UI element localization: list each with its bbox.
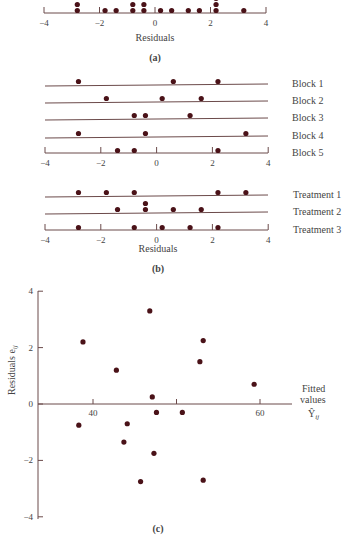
chart-b-xlabel: Residuals (139, 243, 178, 254)
data-point (180, 410, 185, 415)
data-point (215, 190, 220, 195)
data-point (154, 410, 159, 415)
baseline (45, 84, 268, 86)
tick-label: 2 (29, 343, 34, 353)
chart-c-ylabel: Residuals eij (6, 345, 19, 395)
row-block-5: −4−2024Block 5 (40, 147, 323, 168)
data-point (138, 479, 143, 484)
data-point (186, 8, 191, 13)
chart-a: −4−2024 Residuals (a) (39, 0, 269, 64)
data-point (115, 148, 120, 153)
data-point (171, 79, 176, 84)
tick-label: 0 (153, 18, 158, 28)
tick-label: 2 (210, 235, 215, 245)
data-point (197, 359, 202, 364)
data-point (80, 339, 85, 344)
tick-label: −2 (23, 455, 33, 465)
tick-label: 4 (29, 286, 34, 296)
data-point (171, 207, 176, 212)
baseline (45, 136, 268, 138)
row-treatment-3: −4−2024Treatment 3 (40, 224, 341, 245)
data-point (121, 439, 126, 444)
data-point (114, 368, 119, 373)
data-point (75, 2, 80, 7)
data-point (130, 8, 135, 13)
data-point (114, 8, 119, 13)
data-point (125, 421, 130, 426)
chart-b: Block 1Block 2Block 3Block 4−4−2024Block… (40, 78, 341, 245)
tick-label: −4 (40, 235, 50, 245)
row-label: Block 5 (292, 147, 323, 158)
chart-c-xlabel-fitted: Fitted (302, 383, 325, 394)
data-point (201, 338, 206, 343)
data-point (197, 8, 202, 13)
data-point (143, 113, 148, 118)
chart-a-xlabel: Residuals (136, 32, 175, 43)
data-point (160, 96, 165, 101)
row-block-4: Block 4 (45, 130, 323, 141)
chart-c: −4−2024 4060 Residuals eij Fitted values… (6, 286, 326, 535)
data-point (76, 190, 81, 195)
data-point (199, 207, 204, 212)
row-block-3: Block 3 (45, 112, 323, 123)
row-label: Treatment 2 (293, 206, 341, 217)
tick-label: 60 (256, 408, 266, 418)
row-block-1: Block 1 (45, 78, 323, 89)
tick-label: 0 (29, 399, 34, 409)
data-point (143, 131, 148, 136)
data-point (199, 96, 204, 101)
data-point (243, 131, 248, 136)
data-point (213, 8, 218, 13)
tick-label: −2 (96, 235, 106, 245)
row-label: Block 1 (292, 78, 323, 89)
row-label: Block 3 (292, 112, 323, 123)
data-point (104, 190, 109, 195)
tick-label: −4 (23, 512, 33, 522)
data-point (215, 79, 220, 84)
tick-label: 4 (266, 158, 271, 168)
baseline (45, 212, 268, 214)
data-point (252, 382, 257, 387)
chart-c-xlabel-symbol: Ŷij (308, 408, 319, 421)
data-point (76, 423, 81, 428)
baseline (45, 101, 268, 103)
data-point (158, 8, 163, 13)
tick-label: 40 (89, 408, 99, 418)
data-point (213, 2, 218, 7)
baseline (45, 195, 268, 197)
data-point (104, 96, 109, 101)
data-point (150, 394, 155, 399)
tick-label: 2 (210, 158, 215, 168)
row-label: Treatment 1 (293, 189, 341, 200)
row-treatment-2: Treatment 2 (45, 201, 341, 217)
data-point (213, 0, 218, 1)
chart-c-caption: (c) (152, 523, 163, 535)
data-point (132, 148, 137, 153)
tick-label: −4 (39, 18, 49, 28)
tick-label: 4 (266, 235, 271, 245)
data-point (215, 148, 220, 153)
data-point (147, 308, 152, 313)
data-point (115, 207, 120, 212)
data-point (243, 190, 248, 195)
data-point (187, 225, 192, 230)
tick-label: 0 (154, 158, 159, 168)
chart-c-xlabel-values: values (300, 394, 326, 405)
data-point (201, 478, 206, 483)
data-point (143, 201, 148, 206)
data-point (160, 225, 165, 230)
tick-label: 4 (264, 18, 269, 28)
data-point (215, 225, 220, 230)
data-point (241, 8, 246, 13)
row-label: Treatment 3 (293, 224, 341, 235)
data-point (76, 131, 81, 136)
data-point (76, 225, 81, 230)
data-point (169, 8, 174, 13)
data-point (132, 113, 137, 118)
data-point (76, 79, 81, 84)
data-point (141, 8, 146, 13)
row-label: Block 2 (292, 95, 323, 106)
data-point (132, 225, 137, 230)
data-point (132, 190, 137, 195)
chart-b-caption: (b) (152, 263, 164, 275)
